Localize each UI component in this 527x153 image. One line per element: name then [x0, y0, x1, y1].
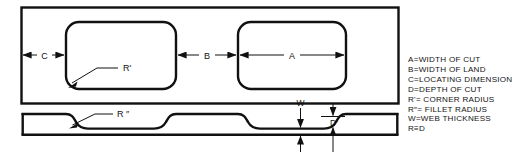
dimension-c-group: C [23, 49, 64, 61]
dimension-c-label: C [41, 51, 48, 61]
dimension-a-group: A [240, 49, 344, 61]
legend-line-b: B=WIDTH OF LAND [408, 65, 526, 75]
legend-line-r-prime: R'= CORNER RADIUS [408, 95, 526, 105]
callout-r-double-prime-label: R ″ [117, 109, 130, 119]
dimension-b-group: B [178, 49, 236, 61]
callout-r-prime-leader-diagonal [72, 68, 97, 83]
engineering-drawing-figure: C B A R' [0, 0, 527, 153]
legend-line-a: A=WIDTH OF CUT [408, 55, 526, 65]
plan-view-group: C B A R' [22, 8, 399, 104]
dimension-a-label: A [289, 51, 295, 61]
legend-line-r-double-prime: R″= FILLET RADIUS [408, 105, 526, 115]
legend-block: A=WIDTH OF CUT B=WIDTH OF LAND C=LOCATIN… [408, 55, 526, 134]
section-view-group: R ″ W D [22, 98, 399, 153]
legend-line-w: W=WEB THICKNESS [408, 114, 526, 124]
legend-line-r-equals-d: R≡D [408, 124, 526, 134]
callout-r-prime-label: R' [123, 63, 131, 73]
cut-outline-left [66, 22, 176, 89]
dimension-w-group: W [296, 98, 304, 153]
dimension-d-label: D [330, 118, 336, 128]
callout-r-prime-group: R' [68, 63, 131, 88]
dimension-b-label: B [204, 51, 210, 61]
legend-line-c: C=LOCATING DIMENSION [408, 75, 526, 85]
legend-line-d: D=DEPTH OF CUT [408, 85, 526, 95]
dimension-w-label: W [296, 98, 304, 108]
